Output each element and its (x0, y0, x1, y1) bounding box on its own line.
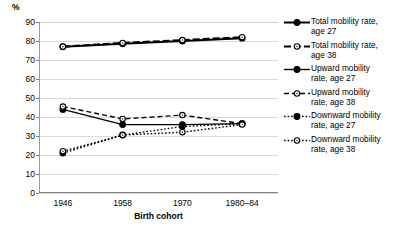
data-point-marker-center (122, 134, 123, 135)
legend-item[interactable]: Upward mobility rate, age 27 (283, 63, 394, 83)
plot-area: 0102030405060708090 1946195819701980–84 … (39, 22, 278, 193)
legend-item[interactable]: Downward mobility rate, age 38 (283, 134, 394, 154)
data-point-marker-center (182, 114, 183, 115)
legend-item[interactable]: Upward mobility rate, age 38 (283, 87, 394, 107)
data-point-marker (120, 122, 126, 128)
legend-label: Total mobility rate, age 38 (311, 40, 378, 60)
x-axis-tick-label: 1958 (113, 198, 132, 208)
legend-label: Upward mobility rate, age 38 (311, 87, 370, 107)
series-line (63, 107, 242, 124)
y-axis-tick-label: 70 (11, 55, 35, 65)
data-point-marker-center (122, 42, 123, 43)
data-point-marker-center (241, 124, 242, 125)
legend-marker-icon (283, 88, 311, 99)
data-point-marker-center (182, 39, 183, 40)
data-point-marker-center (241, 37, 242, 38)
gridline (39, 193, 278, 194)
legend-marker-icon (283, 135, 311, 146)
y-axis-tick-label: 40 (11, 112, 35, 122)
series-line (63, 125, 242, 152)
chart-legend: Total mobility rate, age 27Total mobilit… (283, 16, 394, 157)
legend-label: Downward mobility rate, age 38 (311, 134, 381, 154)
y-axis-tick-label: 20 (11, 150, 35, 160)
y-axis-tick-mark (36, 193, 39, 194)
data-point-marker-center (62, 46, 63, 47)
data-point-marker-center (62, 106, 63, 107)
y-axis-tick-label: 0 (11, 188, 35, 198)
data-point-marker-center (122, 118, 123, 119)
data-point-marker (179, 124, 185, 130)
legend-item[interactable]: Total mobility rate, age 38 (283, 40, 394, 60)
x-axis-tick-label: 1970 (173, 198, 192, 208)
y-axis-tick-label: 80 (11, 36, 35, 46)
y-axis-tick-label: 90 (11, 17, 35, 27)
y-axis-unit-label: % (12, 2, 20, 12)
legend-label: Total mobility rate, age 27 (311, 16, 378, 36)
legend-item[interactable]: Downward mobility rate, age 27 (283, 110, 394, 130)
legend-marker-icon (283, 64, 311, 75)
legend-marker-icon (283, 17, 311, 28)
x-axis-tick-label: 1980–84 (226, 198, 259, 208)
mobility-rate-line-chart: % 0102030405060708090 1946195819701980–8… (0, 0, 394, 239)
x-axis-title: Birth cohort (134, 211, 183, 221)
legend-label: Downward mobility rate, age 27 (311, 110, 381, 130)
x-axis-tick-label: 1946 (53, 198, 72, 208)
y-axis-tick-label: 30 (11, 131, 35, 141)
legend-marker-icon (283, 111, 311, 122)
legend-item[interactable]: Total mobility rate, age 27 (283, 16, 394, 36)
series-layer (39, 22, 278, 193)
legend-label: Upward mobility rate, age 27 (311, 63, 370, 83)
y-axis-tick-label: 10 (11, 169, 35, 179)
legend-marker-icon (283, 41, 311, 52)
data-point-marker-center (182, 132, 183, 133)
y-axis-tick-label: 50 (11, 93, 35, 103)
data-point-marker-center (62, 151, 63, 152)
y-axis-tick-label: 60 (11, 74, 35, 84)
